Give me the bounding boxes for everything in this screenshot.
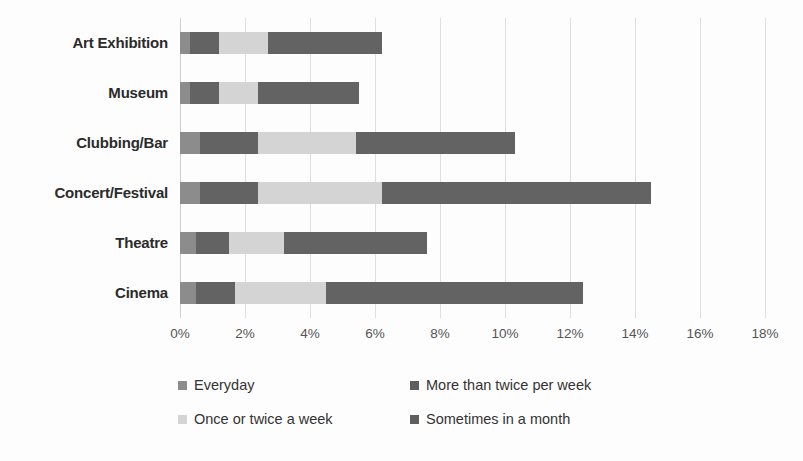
category-label: Clubbing/Bar xyxy=(76,118,168,168)
chart-legend: EverydayMore than twice per weekOnce or … xyxy=(178,368,608,436)
x-axis-tick-label: 6% xyxy=(365,326,385,341)
x-axis-tick-label: 12% xyxy=(556,326,583,341)
bar-segment xyxy=(219,82,258,104)
plot-area: Art ExhibitionMuseumClubbing/BarConcert/… xyxy=(180,18,765,318)
bar-segment xyxy=(196,232,229,254)
bar-segment xyxy=(235,282,326,304)
bar-segment xyxy=(356,132,515,154)
bar-segment xyxy=(180,232,196,254)
bar-segment xyxy=(268,32,382,54)
legend-item[interactable]: Everyday xyxy=(178,377,410,393)
category-label: Cinema xyxy=(115,268,168,318)
bar-segment xyxy=(180,82,190,104)
bar-segment xyxy=(180,282,196,304)
bar-segment xyxy=(258,132,356,154)
stacked-bar xyxy=(180,232,427,254)
x-axis-tick-label: 16% xyxy=(686,326,713,341)
category-label: Art Exhibition xyxy=(72,18,168,68)
x-axis-tick-label: 18% xyxy=(751,326,778,341)
stacked-bar xyxy=(180,182,651,204)
legend-item[interactable]: Sometimes in a month xyxy=(410,411,608,427)
bar-segment xyxy=(219,32,268,54)
bar-segment xyxy=(180,182,200,204)
legend-label: Everyday xyxy=(194,377,254,393)
x-axis: 0%2%4%6%8%10%12%14%16%18% xyxy=(180,322,765,348)
bar-segment xyxy=(229,232,284,254)
stacked-bar xyxy=(180,32,382,54)
legend-swatch-icon xyxy=(410,415,419,424)
stacked-bar-chart: Art ExhibitionMuseumClubbing/BarConcert/… xyxy=(0,0,803,461)
bar-segment xyxy=(258,82,359,104)
legend-item[interactable]: More than twice per week xyxy=(410,377,608,393)
bar-segment xyxy=(382,182,652,204)
category-label: Theatre xyxy=(115,218,168,268)
stacked-bar xyxy=(180,82,359,104)
bar-row: Concert/Festival xyxy=(180,168,765,218)
bar-segment xyxy=(326,282,583,304)
category-label: Museum xyxy=(108,68,168,118)
bar-segment xyxy=(190,32,219,54)
x-axis-tick-label: 10% xyxy=(491,326,518,341)
bar-segment xyxy=(196,282,235,304)
legend-swatch-icon xyxy=(178,415,187,424)
legend-item[interactable]: Once or twice a week xyxy=(178,411,410,427)
stacked-bar xyxy=(180,282,583,304)
x-axis-tick-label: 4% xyxy=(300,326,320,341)
bar-row: Theatre xyxy=(180,218,765,268)
legend-swatch-icon xyxy=(410,381,419,390)
bar-segment xyxy=(258,182,382,204)
bar-row: Clubbing/Bar xyxy=(180,118,765,168)
bar-row: Cinema xyxy=(180,268,765,318)
x-axis-tick-label: 2% xyxy=(235,326,255,341)
legend-swatch-icon xyxy=(178,381,187,390)
bar-segment xyxy=(190,82,219,104)
x-axis-tick-label: 14% xyxy=(621,326,648,341)
category-label: Concert/Festival xyxy=(54,168,168,218)
legend-label: More than twice per week xyxy=(426,377,591,393)
bar-segment xyxy=(200,132,259,154)
bar-row: Art Exhibition xyxy=(180,18,765,68)
legend-label: Sometimes in a month xyxy=(426,411,570,427)
x-axis-tick-label: 0% xyxy=(170,326,190,341)
gridline-18 xyxy=(765,18,766,318)
legend-label: Once or twice a week xyxy=(194,411,333,427)
bar-segment xyxy=(180,132,200,154)
bar-row: Museum xyxy=(180,68,765,118)
bar-segment xyxy=(284,232,427,254)
stacked-bar xyxy=(180,132,515,154)
bar-segment xyxy=(180,32,190,54)
bar-segment xyxy=(200,182,259,204)
x-axis-tick-label: 8% xyxy=(430,326,450,341)
